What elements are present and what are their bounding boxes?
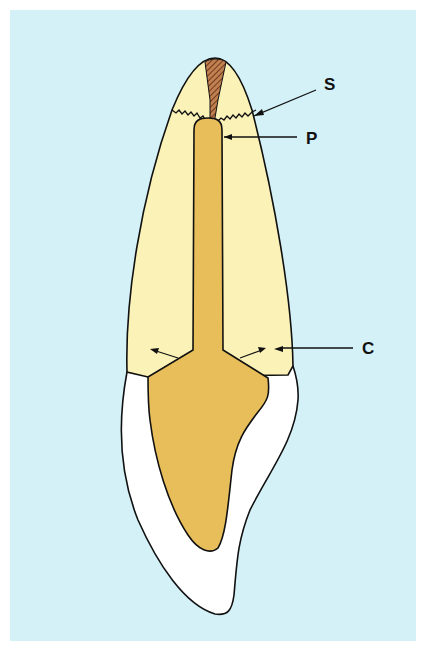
label-p: P [306,130,317,147]
label-c: C [362,340,374,357]
tooth-diagram [0,0,433,649]
label-s: S [324,76,335,93]
leader-line-s [254,90,316,116]
